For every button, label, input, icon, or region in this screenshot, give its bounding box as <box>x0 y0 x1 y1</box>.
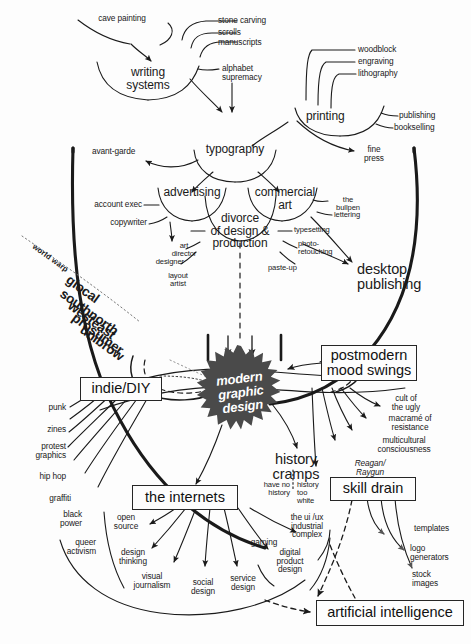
node-lettering: lettering <box>334 211 360 219</box>
node-divorce-of-design-production: divorce of design & production <box>211 212 270 250</box>
node-publishing: publishing <box>399 111 435 120</box>
node-stone-carving: stone carving <box>218 16 266 25</box>
node-hip-hop: hip hop <box>39 472 66 481</box>
node-stock-images: stock images <box>412 570 438 587</box>
node-advertising: advertising <box>164 186 221 199</box>
node-typography: typography <box>206 143 264 156</box>
node-artificial-intelligence[interactable]: artificial intelligence <box>316 600 464 626</box>
node-templates: templates <box>414 524 449 533</box>
diagram-canvas: modern graphic design cave painting writ… <box>0 0 471 644</box>
node-logo-generators: logo generators <box>410 544 449 561</box>
node-multicultural-consciousness: multicultural consciousness <box>377 436 430 453</box>
node-avant-garde: avant-garde <box>92 147 135 156</box>
node-typesetting: typesetting <box>294 226 330 234</box>
node-postmodern-mood-swings[interactable]: postmodern mood swings <box>321 345 417 381</box>
node-desktop-publishing: desktop publishing <box>357 262 421 292</box>
node-art-director: art director <box>172 242 197 258</box>
center-node-label: modern graphic design <box>215 369 266 416</box>
node-reagan-raygun: Reagan/ Raygun <box>355 459 386 476</box>
node-skill-drain[interactable]: skill drain <box>330 477 416 501</box>
node-scrolls: scrolls <box>218 28 241 37</box>
node-manuscripts: manuscripts <box>218 38 262 47</box>
node-copywriter: copywriter <box>110 218 147 227</box>
node-account-exec: account exec <box>94 200 142 209</box>
node-photo-retouching: photo- retouching <box>298 240 332 256</box>
node-history-too-white: history too white <box>297 481 319 505</box>
node-paste-up: paste-up <box>268 264 297 272</box>
node-ui-ux-industrial-complex: the ui /ux industrial complex <box>291 513 324 539</box>
node-gaming: gaming <box>251 538 278 547</box>
node-history-cramps: history cramps <box>273 452 320 482</box>
node-woodblock: woodblock <box>358 45 396 54</box>
node-punk: punk <box>48 403 66 412</box>
node-open-source: open source <box>114 513 138 530</box>
node-fine-press: fine press <box>364 145 384 162</box>
node-writing-systems: writing systems <box>126 66 169 91</box>
node-zines: zines <box>47 425 66 434</box>
node-black-power: black power <box>60 510 82 527</box>
node-alphabet-supremacy: alphabet supremacy <box>222 64 262 81</box>
node-design-thinking: design thinking <box>119 548 147 565</box>
node-indie-diy[interactable]: indie/DIY <box>80 377 162 401</box>
node-cave-painting: cave painting <box>98 14 146 23</box>
node-designer: designer <box>156 258 184 266</box>
node-cult-of-the-ugly: cult of the ugly <box>392 394 420 411</box>
node-macrame-of-resistance: macramé of resistance <box>389 414 432 431</box>
node-the-internets[interactable]: the internets <box>132 485 238 510</box>
node-commercial-art: commercial art <box>255 186 315 211</box>
node-have-no-history: have no history <box>264 481 290 497</box>
node-visual-journalism: visual journalism <box>134 572 171 589</box>
node-protest-graphics: protest graphics <box>35 442 66 459</box>
node-graffiti: graffiti <box>49 494 71 503</box>
node-service-design: service design <box>230 574 256 591</box>
node-queer-activism: queer activism <box>67 538 96 555</box>
node-engraving: engraving <box>358 57 394 66</box>
node-digital-product-design: digital product design <box>277 548 304 574</box>
node-layout-artist: layout artist <box>168 272 188 288</box>
node-printing: printing <box>306 110 345 123</box>
node-social-design: social design <box>191 578 215 595</box>
node-bookselling: bookselling <box>394 123 434 132</box>
node-lithography: lithography <box>358 69 398 78</box>
